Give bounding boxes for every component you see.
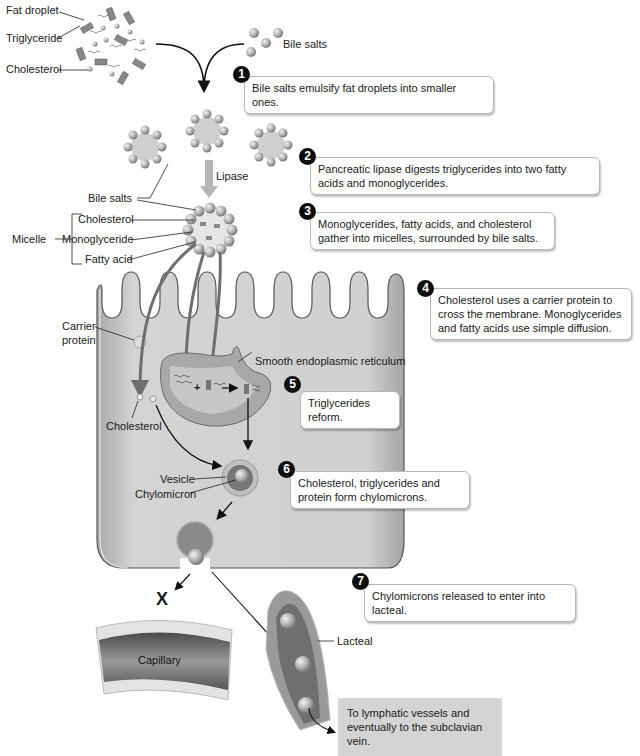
step-3-text: Monoglycerides, fatty acids, and cholest… — [318, 218, 538, 244]
fat-droplet-cluster — [76, 7, 146, 84]
label-fat-droplet: Fat droplet — [6, 4, 59, 17]
label-micelle: Micelle — [12, 233, 46, 246]
step-2-number: 2 — [299, 148, 316, 165]
label-triglyceride: Triglyceride — [6, 32, 62, 45]
label-carrier-protein-2: protein — [62, 334, 96, 347]
label-capillary: Capillary — [138, 654, 181, 667]
step-6-number: 6 — [278, 461, 295, 478]
step-7-number: 7 — [352, 573, 369, 590]
step-2-text: Pancreatic lipase digests triglycerides … — [318, 163, 566, 189]
label-fatty-acid: Fatty acid — [85, 253, 133, 266]
label-cholesterol-micelle: Cholesterol — [78, 213, 134, 226]
step-6-text: Cholesterol, triglycerides and protein f… — [298, 477, 440, 503]
label-bile-salts-top: Bile salts — [283, 38, 327, 51]
step-1-number: 1 — [233, 66, 250, 83]
label-cholesterol-cell: Cholesterol — [106, 420, 162, 433]
step-4-box: Cholesterol uses a carrier protein to cr… — [430, 288, 632, 340]
label-smooth-er: Smooth endoplasmic reticulum — [255, 355, 405, 368]
label-monoglyceride: Monoglyceride — [62, 233, 134, 246]
bile-salts-spheres — [246, 28, 283, 57]
step-4-number: 4 — [417, 280, 434, 297]
emulsified-droplets — [124, 110, 293, 169]
label-cholesterol-top: Cholesterol — [6, 63, 62, 76]
label-plus: + — [194, 381, 200, 394]
step-1-box: Bile salts emulsify fat droplets into sm… — [244, 76, 494, 114]
step-2-box: Pancreatic lipase digests triglycerides … — [310, 157, 600, 195]
merge-arrow — [156, 44, 244, 90]
step-6-box: Cholesterol, triglycerides and protein f… — [290, 471, 470, 509]
step-5-box: Triglycerides reform. — [300, 391, 400, 429]
step-5-text: Triglycerides reform. — [308, 397, 370, 423]
blocked-x-mark: X — [156, 590, 168, 608]
label-carrier-protein-1: Carrier — [62, 320, 96, 333]
lacteal — [266, 591, 334, 730]
label-lacteal: Lacteal — [337, 635, 372, 648]
step-7-box: Chylomicrons released to enter into lact… — [364, 584, 576, 622]
label-chylomicron: Chylomicron — [135, 488, 196, 501]
label-bile-salts-micelle: Bile salts — [88, 192, 132, 205]
exocytosis-vesicle — [177, 522, 213, 570]
step-1-text: Bile salts emulsify fat droplets into sm… — [252, 82, 456, 108]
step-5-number: 5 — [284, 376, 301, 393]
step-7-text: Chylomicrons released to enter into lact… — [372, 590, 545, 616]
top-leader-lines — [58, 12, 88, 70]
step-4-text: Cholesterol uses a carrier protein to cr… — [438, 294, 621, 334]
step-3-box: Monoglycerides, fatty acids, and cholest… — [310, 212, 555, 250]
label-vesicle: Vesicle — [160, 473, 195, 486]
destination-note: To lymphatic vessels and eventually to t… — [338, 698, 502, 756]
step-3-number: 3 — [299, 203, 316, 220]
label-lipase: Lipase — [216, 170, 248, 183]
